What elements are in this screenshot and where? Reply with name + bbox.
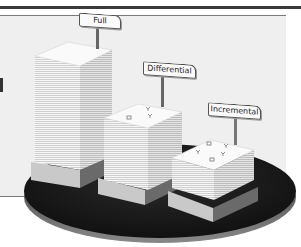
full-label-sign: Full bbox=[79, 13, 121, 30]
incremental-label: Incremental bbox=[211, 104, 259, 116]
backup-stacks-illustration bbox=[0, 0, 301, 247]
full-signpost-pole bbox=[96, 27, 99, 49]
differential-backup-stack bbox=[98, 104, 182, 205]
full-label: Full bbox=[93, 16, 107, 26]
differential-signpost-pole bbox=[161, 77, 164, 107]
full-backup-stack bbox=[31, 42, 112, 188]
incremental-signpost-pole bbox=[234, 117, 237, 145]
differential-label: Differential bbox=[147, 63, 191, 75]
